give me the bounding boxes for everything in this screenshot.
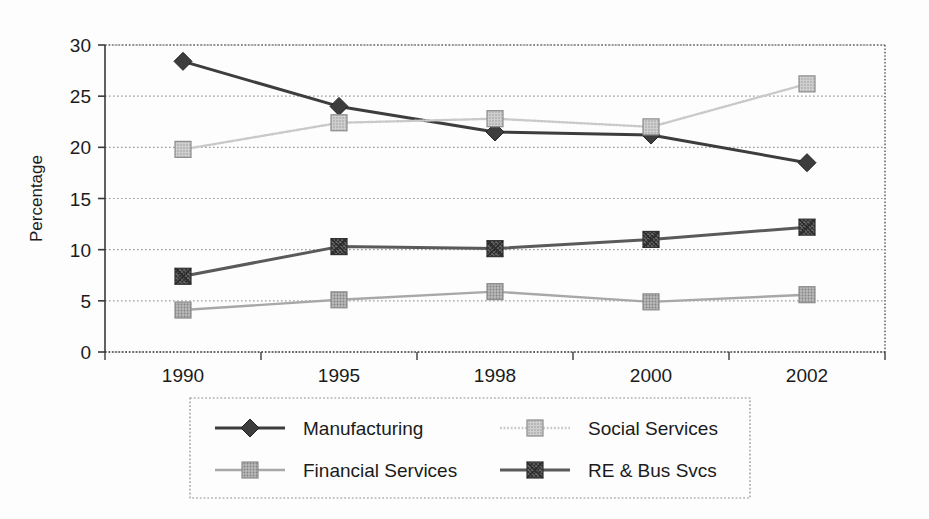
x-tick-label: 2000 bbox=[630, 365, 672, 386]
gridlines bbox=[105, 45, 885, 352]
marker-square bbox=[799, 76, 815, 92]
y-tick-label: 0 bbox=[80, 342, 91, 363]
x-tick-label: 1990 bbox=[162, 365, 204, 386]
marker-square bbox=[643, 294, 659, 310]
y-tick-label: 25 bbox=[70, 86, 91, 107]
marker-square bbox=[242, 462, 258, 478]
legend-item-manufacturing[interactable]: Manufacturing bbox=[215, 418, 423, 439]
marker-square bbox=[331, 292, 347, 308]
y-tick-label: 15 bbox=[70, 189, 91, 210]
marker-square-x bbox=[175, 268, 191, 284]
marker-square bbox=[527, 420, 543, 436]
y-tick-label: 10 bbox=[70, 240, 91, 261]
x-axis-tick-labels: 19901995199820002002 bbox=[162, 365, 828, 386]
x-tick-label: 1998 bbox=[474, 365, 516, 386]
marker-diamond bbox=[798, 154, 816, 172]
marker-square bbox=[799, 287, 815, 303]
y-axis-title-text: Percentage bbox=[27, 155, 46, 242]
chart-container: 051015202530 19901995199820002002 Percen… bbox=[0, 0, 929, 519]
marker-square-x bbox=[799, 219, 815, 235]
series-financial-services bbox=[175, 284, 815, 318]
marker-square bbox=[643, 119, 659, 135]
y-tick-label: 5 bbox=[80, 291, 91, 312]
legend-label: RE & Bus Svcs bbox=[588, 460, 717, 481]
marker-square bbox=[487, 111, 503, 127]
legend-item-financial-services[interactable]: Financial Services bbox=[215, 460, 457, 481]
y-axis-tick-labels: 051015202530 bbox=[70, 35, 91, 363]
marker-square-x bbox=[527, 462, 543, 478]
marker-diamond bbox=[174, 52, 192, 70]
marker-square bbox=[487, 284, 503, 300]
legend-item-re-bus-svcs[interactable]: RE & Bus Svcs bbox=[500, 460, 717, 481]
data-series bbox=[174, 52, 816, 318]
legend-label: Financial Services bbox=[303, 460, 457, 481]
legend-label: Social Services bbox=[588, 418, 718, 439]
marker-diamond bbox=[241, 419, 259, 437]
axis-ticks bbox=[98, 45, 885, 360]
marker-diamond bbox=[330, 97, 348, 115]
marker-square bbox=[175, 141, 191, 157]
series-re-bus-svcs bbox=[175, 219, 815, 284]
chart-legend: ManufacturingSocial ServicesFinancial Se… bbox=[190, 398, 750, 498]
marker-square-x bbox=[487, 241, 503, 257]
y-tick-label: 20 bbox=[70, 137, 91, 158]
marker-square bbox=[175, 302, 191, 318]
y-tick-label: 30 bbox=[70, 35, 91, 56]
legend-item-social-services[interactable]: Social Services bbox=[500, 418, 718, 439]
legend-label: Manufacturing bbox=[303, 418, 423, 439]
marker-square-x bbox=[643, 231, 659, 247]
line-chart-svg: 051015202530 19901995199820002002 Percen… bbox=[0, 0, 929, 519]
marker-square bbox=[331, 115, 347, 131]
x-tick-label: 2002 bbox=[786, 365, 828, 386]
marker-square-x bbox=[331, 239, 347, 255]
x-tick-label: 1995 bbox=[318, 365, 360, 386]
legend-box bbox=[190, 398, 750, 498]
y-axis-title: Percentage bbox=[27, 155, 46, 242]
